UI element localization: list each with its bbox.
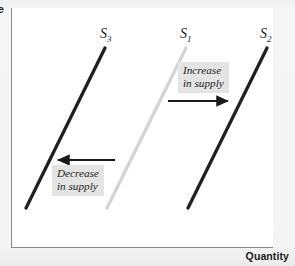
decrease-callout-line2: in supply — [57, 180, 99, 193]
plot-graphics — [0, 0, 295, 266]
x-axis-title: Quantity — [246, 250, 289, 262]
curve-label-s2-text: S — [260, 26, 267, 41]
curve-label-s1-sub: 1 — [187, 34, 192, 44]
increase-callout-line2: in supply — [183, 77, 224, 90]
curve-label-s1: S1 — [180, 26, 192, 44]
y-axis-title: Price — [0, 3, 4, 15]
increase-callout-line1: Increase — [183, 64, 221, 76]
curve-label-s3-text: S — [100, 26, 107, 41]
curve-label-s3: S3 — [100, 26, 112, 44]
supply-curve-figure: Price Quantity S3 S1 S2 Increase in supp… — [0, 0, 295, 266]
curve-label-s3-sub: 3 — [107, 34, 112, 44]
supply-curve-s1 — [107, 48, 186, 208]
decrease-callout-line1: Decrease — [57, 167, 99, 179]
increase-in-supply-callout: Increase in supply — [178, 62, 229, 93]
curve-label-s2-sub: 2 — [267, 34, 272, 44]
curve-label-s2: S2 — [260, 26, 272, 44]
curve-label-s1-text: S — [180, 26, 187, 41]
decrease-in-supply-callout: Decrease in supply — [52, 165, 104, 196]
